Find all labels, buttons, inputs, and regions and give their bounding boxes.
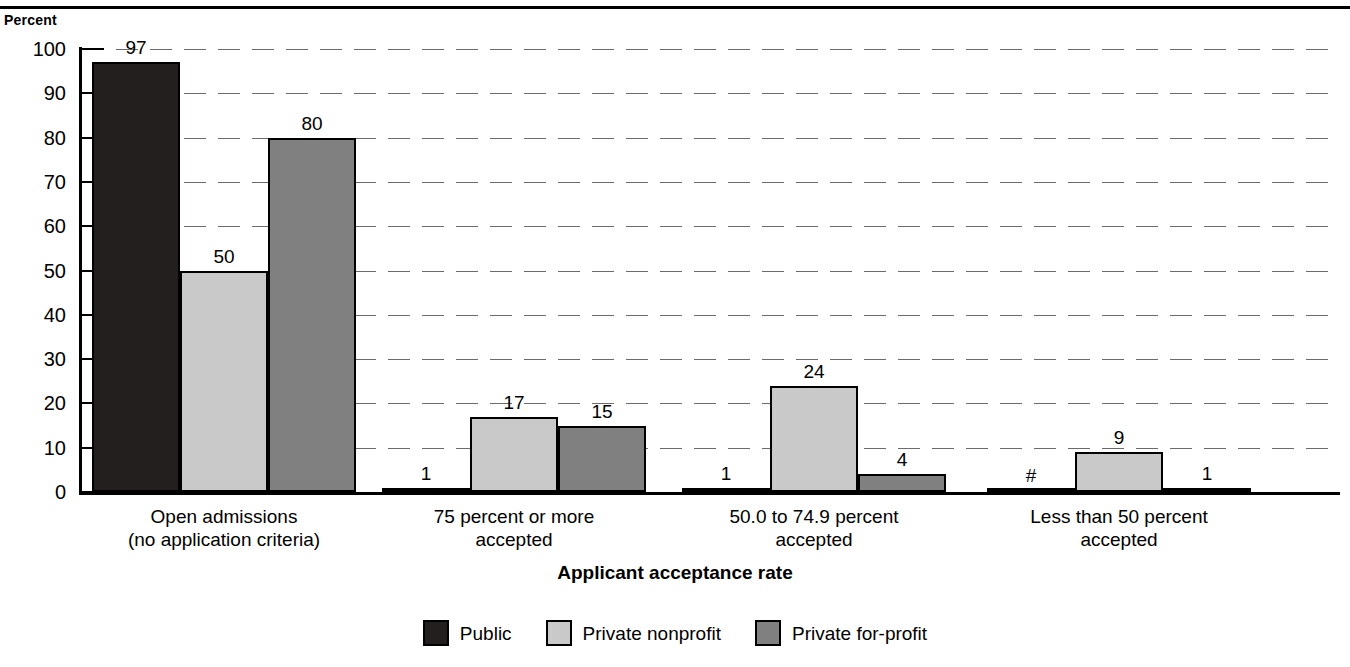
y-axis-tick-label: 50 <box>2 261 66 281</box>
category-label-3: Less than 50 percentaccepted <box>959 505 1279 551</box>
legend-swatch-icon-public <box>423 620 449 646</box>
legend-item-public[interactable]: Public <box>423 620 512 646</box>
bar-public-group-3 <box>987 488 1075 492</box>
bar-value-label: # <box>987 466 1075 485</box>
category-label-1: 75 percent or moreaccepted <box>354 505 674 551</box>
chart-plot-area: 0102030405060708090100 975080117151244#9… <box>82 49 1340 492</box>
bar-forprofit-group-2 <box>858 474 946 492</box>
bar-nonprofit-group-3 <box>1075 452 1163 492</box>
bar-forprofit-group-3 <box>1163 488 1251 492</box>
y-axis-tick-label: 70 <box>2 172 66 192</box>
bar-value-label: 50 <box>180 247 268 266</box>
bar-value-label: 24 <box>770 362 858 381</box>
bar-value-label: 1 <box>1163 464 1251 483</box>
y-axis-tick-label: 10 <box>2 438 66 458</box>
top-divider <box>0 6 1350 9</box>
category-label-line: Open admissions <box>64 505 384 528</box>
bar-forprofit-group-1 <box>558 426 646 492</box>
bar-nonprofit-group-0 <box>180 271 268 493</box>
y-axis-tick-label: 90 <box>2 83 66 103</box>
bar-value-label: 1 <box>682 464 770 483</box>
legend-swatch-icon-forprofit <box>755 620 781 646</box>
y-axis-tick-label: 60 <box>2 216 66 236</box>
category-label-0: Open admissions(no application criteria) <box>64 505 384 551</box>
category-label-line: accepted <box>654 528 974 551</box>
bar-public-group-0 <box>92 62 180 492</box>
bar-nonprofit-group-1 <box>470 417 558 492</box>
legend-label: Private nonprofit <box>583 624 721 643</box>
legend-item-nonprofit[interactable]: Private nonprofit <box>546 620 721 646</box>
legend-label: Public <box>460 624 512 643</box>
category-label-line: 75 percent or more <box>354 505 674 528</box>
category-label-line: (no application criteria) <box>64 528 384 551</box>
y-axis-tick-label: 40 <box>2 305 66 325</box>
legend-label: Private for-profit <box>792 624 927 643</box>
bar-value-label: 4 <box>858 450 946 469</box>
bar-forprofit-group-0 <box>268 138 356 492</box>
bar-public-group-1 <box>382 488 470 492</box>
bar-value-label: 1 <box>382 464 470 483</box>
bar-value-label: 80 <box>268 114 356 133</box>
y-axis-tick-label: 100 <box>2 39 66 59</box>
chart-legend: PublicPrivate nonprofitPrivate for-profi… <box>0 620 1350 646</box>
legend-swatch-icon-nonprofit <box>546 620 572 646</box>
category-label-2: 50.0 to 74.9 percentaccepted <box>654 505 974 551</box>
category-label-line: accepted <box>354 528 674 551</box>
y-axis-tick-label: 30 <box>2 349 66 369</box>
y-axis-title: Percent <box>4 12 57 28</box>
cut-off-heading <box>200 0 1000 4</box>
bar-value-label: 17 <box>470 393 558 412</box>
category-label-line: 50.0 to 74.9 percent <box>654 505 974 528</box>
gridline <box>82 49 1340 50</box>
category-label-line: Less than 50 percent <box>959 505 1279 528</box>
bar-public-group-2 <box>682 488 770 492</box>
bar-value-label: 9 <box>1075 428 1163 447</box>
x-axis-title: Applicant acceptance rate <box>0 562 1350 584</box>
y-axis-tick-label: 0 <box>2 482 66 502</box>
gridline <box>82 93 1340 94</box>
y-axis-tick-label: 80 <box>2 128 66 148</box>
y-axis-tick-label: 20 <box>2 393 66 413</box>
bar-value-label: 97 <box>92 38 180 57</box>
category-label-line: accepted <box>959 528 1279 551</box>
x-axis-line <box>79 492 1340 495</box>
bar-nonprofit-group-2 <box>770 386 858 492</box>
bar-value-label: 15 <box>558 402 646 421</box>
legend-item-forprofit[interactable]: Private for-profit <box>755 620 927 646</box>
